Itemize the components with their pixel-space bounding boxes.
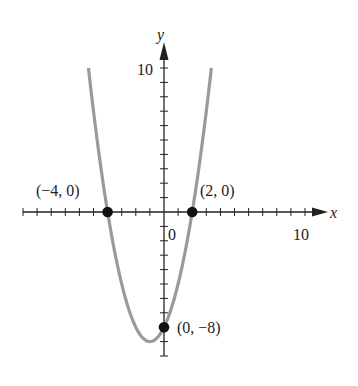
y-tick-label-10: 10 xyxy=(137,61,153,78)
x-axis-arrow-icon xyxy=(312,208,328,217)
data-point-marker xyxy=(187,207,198,218)
y-axis-label: y xyxy=(155,26,165,44)
point-label-neg4-0: (−4, 0) xyxy=(36,182,80,200)
key-points xyxy=(102,207,197,333)
x-tick-label-10: 10 xyxy=(293,226,309,243)
point-label-0-neg8: (0, −8) xyxy=(177,319,221,337)
parabola-curve xyxy=(88,68,211,342)
x-axis-label: x xyxy=(329,204,337,221)
axes xyxy=(23,42,328,356)
data-point-marker xyxy=(102,207,113,218)
origin-label: 0 xyxy=(168,226,176,243)
data-point-marker xyxy=(159,322,170,333)
y-axis-arrow-icon xyxy=(160,42,169,60)
point-label-2-0: (2, 0) xyxy=(200,182,235,200)
parabola-chart: y x 10 10 0 (−4, 0) (2, 0) (0, −8) xyxy=(0,0,358,386)
